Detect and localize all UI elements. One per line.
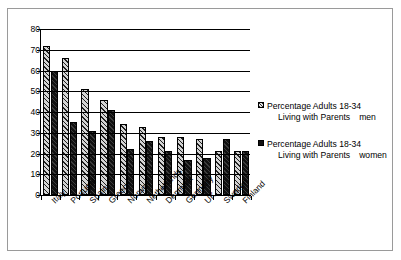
legend-item-women: Percentage Adults 18-34 Living with Pare… xyxy=(258,139,390,160)
gridline xyxy=(40,154,250,155)
legend-men-line1: Percentage Adults 18-34 xyxy=(267,101,361,111)
y-tick-mark xyxy=(37,195,40,196)
legend-women-tail: women xyxy=(350,150,387,160)
gridline xyxy=(40,50,250,51)
legend-swatch-women-icon xyxy=(258,140,264,146)
legend-item-men: Percentage Adults 18-34 Living with Pare… xyxy=(258,101,390,122)
legend-label-men: Percentage Adults 18-34 Living with Pare… xyxy=(267,101,390,122)
plot-area: 01020304050607080 xyxy=(40,29,250,195)
gridline xyxy=(40,71,250,72)
gridline xyxy=(40,133,250,134)
legend-men-line2: Living with Parents xyxy=(278,112,350,122)
bar-women xyxy=(223,139,230,195)
gridline xyxy=(40,112,250,113)
legend-label-women: Percentage Adults 18-34 Living with Pare… xyxy=(267,139,390,160)
chart-legend: Percentage Adults 18-34 Living with Pare… xyxy=(258,101,390,177)
x-axis-labels: ItalyPortugalSpainGreeceNorwayNethetland… xyxy=(40,197,270,253)
bar-men xyxy=(43,46,50,195)
legend-women-line2: Living with Parents xyxy=(278,150,350,160)
bar-women xyxy=(108,110,115,195)
legend-swatch-men-icon xyxy=(258,102,264,108)
bar-men xyxy=(100,100,107,195)
bar-men xyxy=(215,151,222,195)
chart-frame: 01020304050607080 ItalyPortugalSpainGree… xyxy=(7,8,393,251)
gridline xyxy=(40,29,250,30)
gridline xyxy=(40,174,250,175)
legend-women-line1: Percentage Adults 18-34 xyxy=(267,139,361,149)
legend-men-tail: men xyxy=(350,112,376,122)
gridline xyxy=(40,91,250,92)
